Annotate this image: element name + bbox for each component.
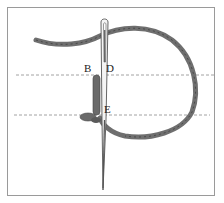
thread-knot-2 bbox=[91, 117, 101, 123]
stitch-diagram: B D E bbox=[0, 0, 224, 203]
stitch-b-e bbox=[93, 75, 100, 115]
label-e: E bbox=[104, 103, 111, 115]
label-b: B bbox=[84, 62, 91, 74]
label-d: D bbox=[106, 62, 114, 74]
thread-loop bbox=[36, 28, 196, 137]
